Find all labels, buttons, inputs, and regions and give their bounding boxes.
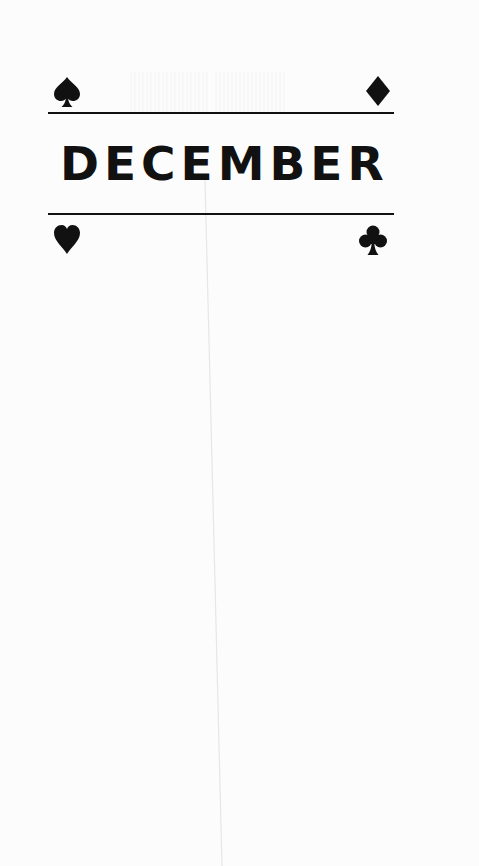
page: DECEMBER — [0, 0, 479, 866]
bleed-through-texture — [130, 72, 210, 112]
page-title: DECEMBER — [60, 138, 390, 190]
heart-icon — [52, 223, 82, 255]
spade-icon — [52, 76, 82, 108]
top-rule — [48, 112, 394, 114]
bleed-through-texture — [215, 72, 285, 112]
diamond-icon — [363, 75, 393, 107]
club-icon — [358, 224, 388, 256]
fold-crease — [0, 0, 479, 866]
bottom-rule — [48, 213, 394, 215]
